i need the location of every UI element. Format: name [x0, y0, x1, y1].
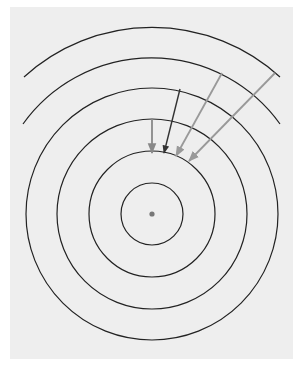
arrow-4	[189, 73, 275, 161]
center-point	[149, 211, 154, 216]
concentric-wavefront-diagram	[0, 0, 300, 367]
arc-1	[23, 58, 280, 124]
wavefront-arcs	[23, 27, 280, 124]
arrow-2	[164, 89, 180, 153]
ray-arrows	[152, 73, 275, 161]
arc-2	[24, 27, 280, 77]
